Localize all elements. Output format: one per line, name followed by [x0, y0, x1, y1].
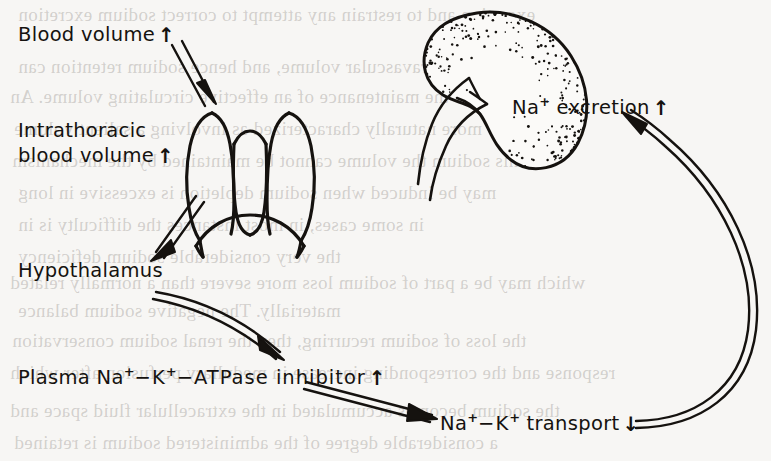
arrow-transport-to-excretion — [622, 110, 757, 428]
blood-volume-text: Blood volume — [18, 23, 155, 46]
node-label-plasma-atpase-inhibitor: Plasma Na+−K+−ATPase inhibitor↑ — [18, 364, 386, 390]
plasma-inhibitor-suffix: −ATPase inhibitor — [177, 366, 366, 389]
plasma-inhibitor-sup-na: + — [124, 364, 135, 379]
node-label-intrathoracic-blood-volume: Intrathoracic blood volume↑ — [18, 118, 174, 169]
transport-sup-na: + — [467, 410, 478, 425]
figure-root: excretion and to restrain any attempt to… — [0, 0, 771, 461]
transport-mid: −K — [478, 412, 509, 435]
intrathoracic-text-line1: Intrathoracic — [18, 119, 146, 142]
transport-sup-k: + — [509, 410, 520, 425]
node-label-na-k-transport: Na+−K+ transport↓ — [440, 410, 639, 436]
node-label-blood-volume: Blood volume↑ — [18, 22, 175, 47]
excretion-sup-na: + — [539, 94, 550, 109]
arrow-hypothalamus-to-inhibitor — [153, 292, 284, 360]
arrow-thorax-to-hypothalamus — [151, 196, 204, 261]
transport-prefix: Na — [440, 412, 467, 435]
plasma-inhibitor-sup-k: + — [166, 364, 177, 379]
node-label-hypothalamus: Hypothalamus — [18, 258, 163, 283]
excretion-suffix: excretion — [550, 96, 650, 119]
hypothalamus-text: Hypothalamus — [18, 259, 163, 282]
plasma-inhibitor-mid: −K — [135, 366, 166, 389]
plasma-inhibitor-prefix: Plasma Na — [18, 366, 124, 389]
diagram-canvas — [0, 0, 771, 461]
intrathoracic-text-line2: blood volume — [18, 144, 154, 167]
transport-suffix: transport — [520, 412, 619, 435]
excretion-prefix: Na — [512, 96, 539, 119]
arrow-blood-to-thorax — [172, 41, 216, 106]
node-label-na-excretion: Na+ excretion↑ — [512, 94, 670, 120]
thorax-anatomy — [187, 113, 314, 257]
